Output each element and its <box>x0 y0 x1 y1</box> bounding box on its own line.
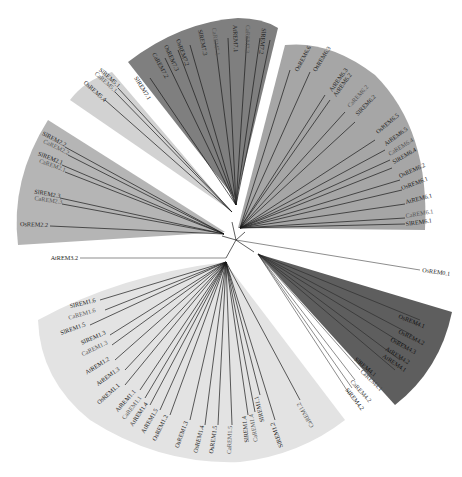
leaf-label: AtREM7.1 <box>232 25 240 53</box>
leaf-label: OsREM2.2 <box>20 220 48 228</box>
outgroup-label: AtREM3.2 <box>51 254 78 261</box>
outgroup-label: OsREM0.1 <box>422 266 451 277</box>
leaf-label: CaREM7.3 <box>244 25 252 53</box>
leaf-label: CaREM1.5 <box>225 426 233 454</box>
phylogenetic-tree: SlREM7.1 CaREM7.2 OsREM7.3 OsREM7.2 SlRE… <box>0 0 462 477</box>
